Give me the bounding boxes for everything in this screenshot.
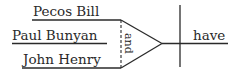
subject-word-2: Paul Bunyan <box>12 27 98 43</box>
conjunction-word: and <box>122 33 135 54</box>
subject-word-1: Pecos Bill <box>33 3 99 19</box>
sentence-diagram: Pecos Bill Paul Bunyan John Henry and ha… <box>0 0 237 75</box>
verb-word: have <box>193 27 225 43</box>
subject-word-3: John Henry <box>21 51 101 67</box>
